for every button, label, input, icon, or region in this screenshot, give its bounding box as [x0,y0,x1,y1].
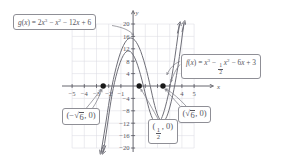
marked-point-neg-sqrt6 [101,83,106,88]
constant-6: 6 [87,18,91,27]
svg-text:−20: −20 [119,144,130,151]
equals-sign: = [32,18,36,27]
exponent-2: 2 [58,18,61,23]
paren-close: ) [170,121,173,131]
graph-figure: x y −5 −4 −3 −2 −1 4 5 [0,0,299,158]
var-x: x [76,18,79,27]
exponent-3: 3 [207,58,210,63]
marked-point-sqrt6 [160,83,165,88]
equation-callout-f: f(x) = x3 − 12x2 − 6x + 3 [181,54,261,79]
y-axis-label: y [135,9,140,16]
svg-text:−4: −4 [81,90,89,97]
equation-callout-g: g(x) = 2x3 − x2 − 12x + 6 [13,14,96,30]
svg-text:4: 4 [180,90,184,97]
paren-close: ) [27,18,29,27]
minus-sign: − [231,58,235,67]
paren-close: ) [194,58,196,67]
minus-sign: − [49,18,53,27]
equation-f-text: f(x) = x3 − 12x2 − 6x + 3 [186,58,256,76]
fraction-one-half: 12 [156,127,161,141]
var-x: x [241,58,244,67]
radical-sqrt: √6 [185,109,195,120]
fraction-numerator: 1 [156,127,161,134]
x-axis-tick-labels: −5 −4 −3 −2 −1 4 5 [69,90,197,97]
svg-text:−16: −16 [119,132,130,139]
svg-text:20: 20 [123,20,130,27]
fraction-one-half: 12 [218,63,223,76]
svg-text:−4: −4 [122,95,130,102]
plus-sign: + [81,18,85,27]
fraction-denominator: 2 [218,69,223,76]
svg-text:−8: −8 [122,107,130,114]
exponent-2: 2 [227,58,230,63]
svg-text:−5: −5 [69,90,77,97]
point-label-text: (−√6, 0) [67,111,96,122]
constant-3: 3 [252,58,256,67]
equation-g-text: g(x) = 2x3 − x2 − 12x + 6 [18,18,91,27]
point-callout-one-half: (12, 0) [148,119,178,144]
paren-close: ) [93,110,96,120]
point-label-text: (√6, 0) [183,109,207,120]
minus-sign: − [212,58,216,67]
svg-text:5: 5 [192,90,196,97]
marked-point-one-half [137,83,142,88]
minus-sign: − [63,18,67,27]
svg-text:−12: −12 [119,120,129,127]
paren-close: ) [204,108,207,118]
x-axis-label: x [216,83,220,90]
fraction-denominator: 2 [156,133,161,141]
point-callout-sqrt6: (√6, 0) [178,106,211,123]
exponent-3: 3 [45,18,48,23]
plus-sign: + [246,58,250,67]
point-callout-neg-sqrt6: (−√6, 0) [62,108,100,125]
equals-sign: = [198,58,202,67]
radical-sqrt: √6 [74,111,84,122]
point-label-text: (12, 0) [153,122,174,141]
